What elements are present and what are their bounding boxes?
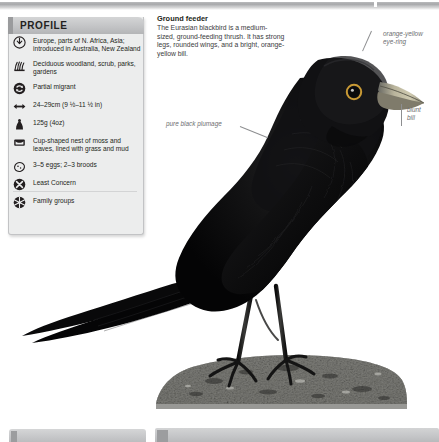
page-root: PROFILE Europe, parts of N. Africa, Asia… <box>0 0 439 442</box>
annotation-plumage-leader <box>240 126 268 138</box>
profile-rows: Europe, parts of N. Africa, Asia; introd… <box>9 36 143 214</box>
annotation-eye-ring-leader <box>362 31 372 52</box>
globe-range-icon <box>13 36 28 49</box>
profile-row-eggs: 3–5 eggs; 2–3 broods <box>9 160 143 173</box>
size-arrows-icon <box>13 100 28 113</box>
migration-arrow-icon <box>13 82 28 95</box>
annotation-bill-leader <box>401 104 402 126</box>
profile-row-weight-text: 125g (4oz) <box>33 118 65 127</box>
next-panel-gap <box>146 426 155 442</box>
profile-row-social-text: Family groups <box>33 196 74 205</box>
conservation-status-icon <box>13 178 28 191</box>
profile-row-eggs-text: 3–5 eggs; 2–3 broods <box>33 160 97 169</box>
tail <box>22 282 200 343</box>
wing <box>222 120 369 295</box>
profile-row-size: 24–29cm (9 ½–11 ½ in) <box>9 100 143 113</box>
profile-row-range-text: Europe, parts of N. Africa, Asia; introd… <box>33 36 143 54</box>
social-group-icon <box>13 196 28 209</box>
profile-row-social: Family groups <box>9 196 143 209</box>
profile-row-habitat-text: Deciduous woodland, scrub, parks, garden… <box>33 59 143 77</box>
annotation-plumage: pure black plumage <box>166 120 246 128</box>
profile-row-status-text: Least Concern <box>33 178 76 187</box>
legs <box>210 286 314 386</box>
rock-perch <box>156 355 407 409</box>
habitat-grass-icon <box>13 59 28 72</box>
throat-shading <box>326 126 368 147</box>
profile-row-migration: Partial migrant <box>9 82 143 95</box>
egg-icon <box>13 160 28 173</box>
body <box>175 76 384 311</box>
nest-icon <box>13 136 28 149</box>
profile-row-habitat: Deciduous woodland, scrub, parks, garden… <box>9 59 143 77</box>
caption-body: The Eurasian blackbird is a medium-sized… <box>157 24 285 58</box>
profile-row-nest: Cup-shaped nest of moss and leaves, line… <box>9 136 143 154</box>
weight-icon <box>13 118 28 131</box>
profile-row-migration-text: Partial migrant <box>33 82 76 91</box>
profile-row-status: Least Concern <box>9 178 143 191</box>
next-panel-right <box>155 428 439 442</box>
annotation-eye-ring: orange-yelloweye-ring <box>383 30 439 46</box>
next-panel-left <box>9 429 146 442</box>
profile-row-size-text: 24–29cm (9 ½–11 ½ in) <box>33 100 102 109</box>
profile-row-nest-text: Cup-shaped nest of moss and leaves, line… <box>33 136 143 154</box>
profile-row-range: Europe, parts of N. Africa, Asia; introd… <box>9 36 143 54</box>
profile-panel-header: PROFILE <box>8 17 144 34</box>
head <box>298 56 389 144</box>
top-divider-shadow <box>0 7 439 10</box>
profile-row-weight: 125g (4oz) <box>9 118 143 131</box>
profile-title: PROFILE <box>20 20 68 31</box>
eye <box>347 85 361 99</box>
annotation-bill: bluntbill <box>407 106 439 122</box>
caption-title: Ground feeder <box>157 14 208 23</box>
